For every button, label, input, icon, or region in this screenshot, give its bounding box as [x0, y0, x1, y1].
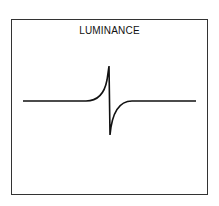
luminance-curve — [0, 0, 219, 206]
